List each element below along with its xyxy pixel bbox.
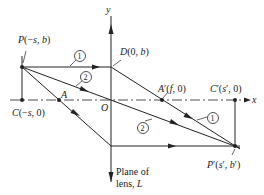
ray-2-badge-bottom: 2	[138, 119, 153, 134]
svg-text:1: 1	[211, 114, 215, 123]
label-C-prime: C′(s′, 0)	[210, 83, 242, 95]
x-axis-arrow-icon	[244, 98, 251, 103]
label-D: D(0, b)	[119, 46, 149, 58]
leader-P	[23, 51, 26, 63]
label-A-prime: A′(f, 0)	[157, 83, 186, 95]
label-C: C(−s, 0)	[12, 107, 45, 119]
ray-2-arrow-icon	[80, 86, 90, 92]
lens-label-line2: lens, L	[116, 178, 143, 189]
label-O: O	[101, 102, 108, 113]
leader-P-prime	[232, 149, 235, 155]
ray-1-badge-bottom: 1	[197, 113, 219, 124]
lens-arrow-icon	[109, 172, 114, 182]
y-axis-label: y	[105, 4, 111, 15]
ray-1-badge-top: 1	[70, 51, 86, 67]
ray-2-arrow-icon-2	[170, 119, 180, 125]
label-P: P(−s, b)	[17, 34, 50, 46]
label-P-prime: P′(s′, b′)	[206, 159, 240, 171]
ray-1-arrow-icon	[92, 65, 100, 70]
leader-D	[113, 60, 121, 66]
lens-ray-diagram: x y P(−s, b) D(0, b) C(−s, 0) A O A′(f, …	[0, 0, 264, 195]
ray-2-badge-top: 2	[76, 72, 92, 87]
ray-3-arrow-icon-2	[168, 144, 176, 149]
point-A-prime	[160, 98, 164, 102]
y-axis-arrow-icon	[109, 24, 114, 34]
svg-text:1: 1	[78, 52, 82, 61]
svg-text:2: 2	[141, 124, 145, 133]
lens-label-line1: Plane of	[116, 166, 150, 177]
ray-3-arrow-icon	[71, 109, 81, 116]
point-C	[20, 98, 24, 102]
x-axis-label: x	[251, 94, 257, 105]
point-P	[20, 65, 24, 69]
point-C-prime	[233, 98, 237, 102]
svg-text:2: 2	[84, 73, 88, 82]
point-P-prime	[233, 144, 237, 148]
ray-1-refracted	[111, 67, 240, 149]
label-A: A	[60, 89, 68, 100]
